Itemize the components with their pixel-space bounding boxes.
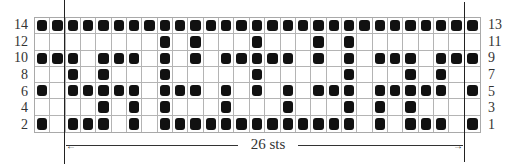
stitch-cell-contrast [449,51,464,67]
stitch-count-label: 26 sts [238,136,298,153]
knitting-chart: 1412108642 131197531 ← → 26 sts [0,0,519,164]
stitch-cell-contrast [388,83,403,99]
stitch-cell-main [419,99,434,115]
stitch-cell-main [66,99,81,115]
stitch-cell-contrast [265,51,280,67]
row-label-left: 14 [4,17,28,33]
stitch-cell-contrast [434,116,449,132]
stitch-cell-contrast [342,83,357,99]
stitch-cell-main [419,67,434,83]
stitch-cell-main [434,34,449,50]
row-label-right: 7 [488,67,495,83]
stitch-cell-main [81,51,96,67]
row-label-left: 10 [4,50,28,66]
stitch-cell-main [96,34,111,50]
stitch-cell-main [449,99,464,115]
row-label-right: 13 [488,17,502,33]
stitch-cell-main [112,99,127,115]
stitch-cell-main [265,83,280,99]
stitch-cell-main [265,67,280,83]
stitch-cell-contrast [281,83,296,99]
stitch-cell-contrast [81,116,96,132]
stitch-cell-contrast [66,116,81,132]
stitch-cell-contrast [127,83,142,99]
stitch-cell-contrast [112,83,127,99]
stitch-cell-contrast [311,51,326,67]
stitch-cell-main [173,99,188,115]
stitch-cell-contrast [219,18,234,34]
stitch-cell-contrast [465,18,480,34]
stitch-cell-contrast [250,83,265,99]
stitch-cell-main [112,67,127,83]
stitch-cell-contrast [234,18,249,34]
stitch-cell-contrast [388,18,403,34]
stitch-cell-main [81,67,96,83]
stitch-cell-contrast [265,116,280,132]
stitch-cell-contrast [219,116,234,132]
stitch-cell-contrast [35,18,50,34]
stitch-cell-main [142,67,157,83]
stitch-cell-main [188,67,203,83]
stitch-cell-contrast [112,51,127,67]
repeat-start-line [64,0,65,164]
stitch-cell-contrast [296,116,311,132]
stitch-cell-main [204,83,219,99]
stitch-cell-main [173,67,188,83]
stitch-cell-contrast [234,51,249,67]
arrow-right-icon: → [453,141,463,150]
stitch-cell-main [465,67,480,83]
stitch-cell-contrast [342,18,357,34]
stitch-cell-contrast [281,18,296,34]
stitch-cell-main [327,99,342,115]
stitch-cell-contrast [188,83,203,99]
stitch-cell-contrast [434,18,449,34]
stitch-cell-main [296,34,311,50]
stitch-cell-main [112,116,127,132]
stitch-cell-contrast [419,83,434,99]
stitch-cell-main [219,34,234,50]
stitch-cell-contrast [434,67,449,83]
stitch-cell-main [465,34,480,50]
stitch-cell-contrast [296,18,311,34]
stitch-cell-main [296,51,311,67]
row-label-left: 2 [4,117,28,133]
stitch-cell-main [188,99,203,115]
stitch-cell-contrast [403,83,418,99]
stitch-cell-contrast [403,51,418,67]
stitch-cell-contrast [465,116,480,132]
stitch-cell-contrast [342,99,357,115]
stitch-cell-main [388,99,403,115]
stitch-cell-main [388,34,403,50]
stitch-cell-main [449,83,464,99]
stitch-cell-contrast [434,83,449,99]
stitch-cell-main [35,34,50,50]
stitch-cell-contrast [204,18,219,34]
stitch-cell-main [265,99,280,115]
stitch-cell-contrast [188,51,203,67]
stitch-cell-main [173,51,188,67]
stitch-cell-contrast [127,116,142,132]
stitch-cell-main [327,34,342,50]
stitch-cell-main [142,83,157,99]
stitch-grid [34,17,481,133]
stitch-cell-contrast [35,51,50,67]
stitch-cell-main [265,34,280,50]
stitch-cell-contrast [281,99,296,115]
stitch-cell-contrast [250,34,265,50]
stitch-cell-main [250,99,265,115]
stitch-cell-main [204,34,219,50]
stitch-cell-contrast [112,18,127,34]
stitch-cell-contrast [204,116,219,132]
stitch-cell-contrast [403,99,418,115]
stitch-cell-contrast [188,116,203,132]
stitch-cell-main [449,116,464,132]
stitch-cell-main [142,116,157,132]
stitch-cell-contrast [66,18,81,34]
stitch-cell-main [234,67,249,83]
stitch-cell-main [127,67,142,83]
stitch-cell-contrast [419,18,434,34]
row-label-left: 12 [4,34,28,50]
stitch-cell-main [234,99,249,115]
stitch-cell-contrast [188,18,203,34]
stitch-cell-contrast [373,99,388,115]
